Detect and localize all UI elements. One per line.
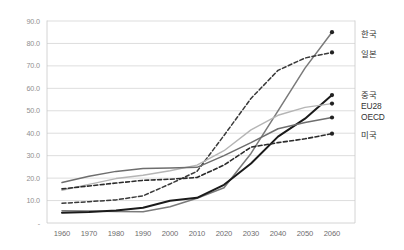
y-tick-label-60: 60.0 (10, 84, 40, 93)
legend-label-OECD: OECD (361, 112, 385, 122)
series-endpoint-marker-1 (330, 50, 334, 54)
y-tick-label-10: 10.0 (10, 196, 40, 205)
x-tick-label-2060: 2060 (317, 229, 347, 238)
y-tick-label-90: 90.0 (10, 17, 40, 26)
y-tick-label-50: 50.0 (10, 106, 40, 115)
legend-label-중국: 중국 (361, 88, 377, 100)
series-lines-group (62, 32, 332, 212)
x-tick-label-2040: 2040 (263, 229, 293, 238)
legend-label-한국: 한국 (361, 27, 377, 39)
series-endpoint-marker-2 (330, 93, 334, 97)
y-tick-label-40: 40.0 (10, 129, 40, 138)
x-tick-label-2020: 2020 (209, 229, 239, 238)
chart-plot-area (0, 0, 404, 250)
x-tick-label-2050: 2050 (290, 229, 320, 238)
y-tick-label-20: 20.0 (10, 174, 40, 183)
y-tick-label-0: - (10, 219, 40, 228)
series-endpoint-marker-4 (330, 115, 334, 119)
y-tick-label-70: 70.0 (10, 61, 40, 70)
series-endpoint-marker-0 (330, 30, 334, 34)
series-endpoint-marker-3 (330, 102, 334, 106)
aging-rate-line-chart: -10.020.030.040.050.060.070.080.090.0 19… (0, 0, 404, 250)
y-tick-label-80: 80.0 (10, 39, 40, 48)
legend-label-일본: 일본 (361, 47, 377, 59)
x-tick-label-1990: 1990 (128, 229, 158, 238)
series-line-5 (62, 134, 332, 189)
series-line-2 (62, 95, 332, 213)
x-tick-label-1980: 1980 (101, 229, 131, 238)
legend-label-미국: 미국 (361, 128, 377, 140)
x-tick-label-2010: 2010 (182, 229, 212, 238)
legend-label-EU28: EU28 (361, 101, 382, 111)
series-endpoint-marker-5 (330, 132, 334, 136)
y-tick-label-30: 30.0 (10, 151, 40, 160)
series-endpoint-markers-group (330, 30, 356, 136)
x-tick-label-1970: 1970 (74, 229, 104, 238)
x-tick-label-2030: 2030 (236, 229, 266, 238)
x-tick-label-2000: 2000 (155, 229, 185, 238)
x-tick-label-1960: 1960 (47, 229, 77, 238)
